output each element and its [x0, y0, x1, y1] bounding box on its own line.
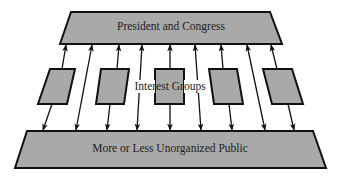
arrow-group2-to-top	[117, 45, 119, 69]
arrow-group4-to-top	[221, 45, 223, 69]
interest-group-box-1	[38, 69, 75, 104]
arrow-group5-to-bottom	[288, 104, 294, 130]
arrow-group5-to-top	[271, 45, 277, 69]
interest-groups-label: Interest Groups	[134, 80, 206, 93]
interest-group-box-4	[209, 69, 243, 104]
interest-group-box-2	[96, 69, 129, 104]
arrow-group1-to-bottom	[43, 104, 52, 130]
arrow-group1-to-top	[62, 45, 66, 69]
arrow-group4-to-bottom	[229, 104, 232, 130]
interest-group-box-5	[263, 69, 303, 104]
president-congress-label: President and Congress	[117, 20, 225, 33]
public-label: More or Less Unorganized Public	[92, 142, 248, 155]
arrow-direct-4	[247, 45, 265, 130]
arrow-direct-1	[76, 45, 92, 130]
arrow-group2-to-bottom	[107, 104, 110, 130]
diagram-canvas: President and Congress More or Less Unor…	[0, 0, 345, 176]
